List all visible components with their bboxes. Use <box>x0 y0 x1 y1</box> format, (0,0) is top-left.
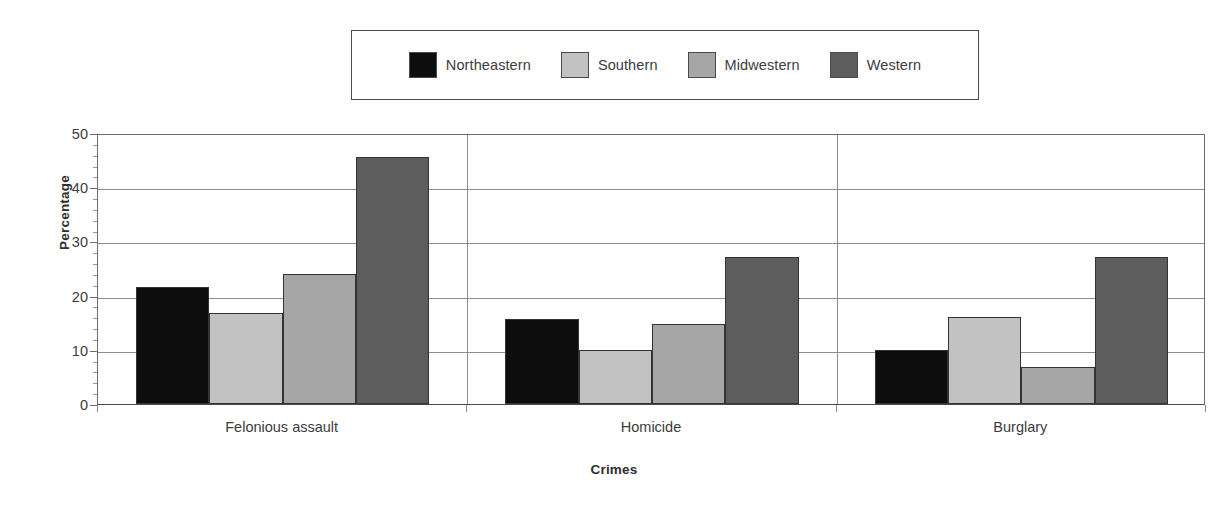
y-major-tick-50 <box>90 134 97 135</box>
x-axis-title: Crimes <box>0 462 1228 477</box>
bar-chart: Percentage 01020304050 Felonious assault… <box>0 0 1228 510</box>
bar-western-burglary <box>1095 257 1168 404</box>
y-tick-label-20: 20 <box>54 289 88 305</box>
bar-midwestern-homicide <box>652 324 725 404</box>
bar-southern-burglary <box>948 317 1021 404</box>
group-separator-1 <box>467 135 468 404</box>
bar-northeastern-burglary <box>875 350 948 404</box>
y-axis-tick-labels: 01020304050 <box>50 0 88 510</box>
bar-northeastern-homicide <box>505 319 578 404</box>
gridline-30 <box>98 243 1204 244</box>
x-category-label-0: Felonious assault <box>225 419 338 435</box>
plot-area <box>97 134 1205 405</box>
gridline-20 <box>98 298 1204 299</box>
bar-western-homicide <box>725 257 798 404</box>
bar-northeastern-felonious-assault <box>136 287 209 404</box>
bar-midwestern-burglary <box>1021 367 1094 404</box>
y-major-tick-40 <box>90 188 97 189</box>
bar-midwestern-felonious-assault <box>283 274 356 404</box>
bar-western-felonious-assault <box>356 157 429 404</box>
x-category-label-1: Homicide <box>621 419 681 435</box>
x-major-tick-0 <box>97 405 98 412</box>
y-major-tick-0 <box>90 405 97 406</box>
y-major-tick-10 <box>90 351 97 352</box>
bar-southern-homicide <box>579 350 652 404</box>
y-tick-label-30: 30 <box>54 234 88 250</box>
y-tick-label-40: 40 <box>54 180 88 196</box>
y-major-tick-30 <box>90 242 97 243</box>
bar-southern-felonious-assault <box>209 313 282 404</box>
x-major-tick-1 <box>466 405 467 412</box>
y-major-tick-20 <box>90 297 97 298</box>
x-major-tick-2 <box>836 405 837 412</box>
y-tick-label-10: 10 <box>54 343 88 359</box>
group-separator-2 <box>837 135 838 404</box>
y-tick-label-50: 50 <box>54 126 88 142</box>
gridline-40 <box>98 189 1204 190</box>
x-major-tick-3 <box>1205 405 1206 412</box>
y-tick-label-0: 0 <box>54 397 88 413</box>
x-category-label-2: Burglary <box>993 419 1047 435</box>
